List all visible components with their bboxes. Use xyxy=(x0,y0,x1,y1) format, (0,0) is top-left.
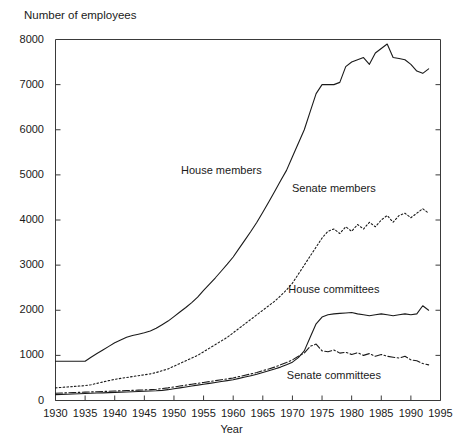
employment-line-chart: Number of employees Year 010002000300040… xyxy=(0,0,463,443)
axis-tick-marks xyxy=(56,85,441,401)
series-line-house-members xyxy=(56,44,429,361)
series-line-senate-committees xyxy=(56,344,429,393)
series-line-senate-members xyxy=(56,209,429,388)
data-series-group xyxy=(56,44,429,395)
plot-area xyxy=(0,0,463,443)
series-line-house-committees xyxy=(56,306,429,395)
axis-frame xyxy=(56,40,441,401)
